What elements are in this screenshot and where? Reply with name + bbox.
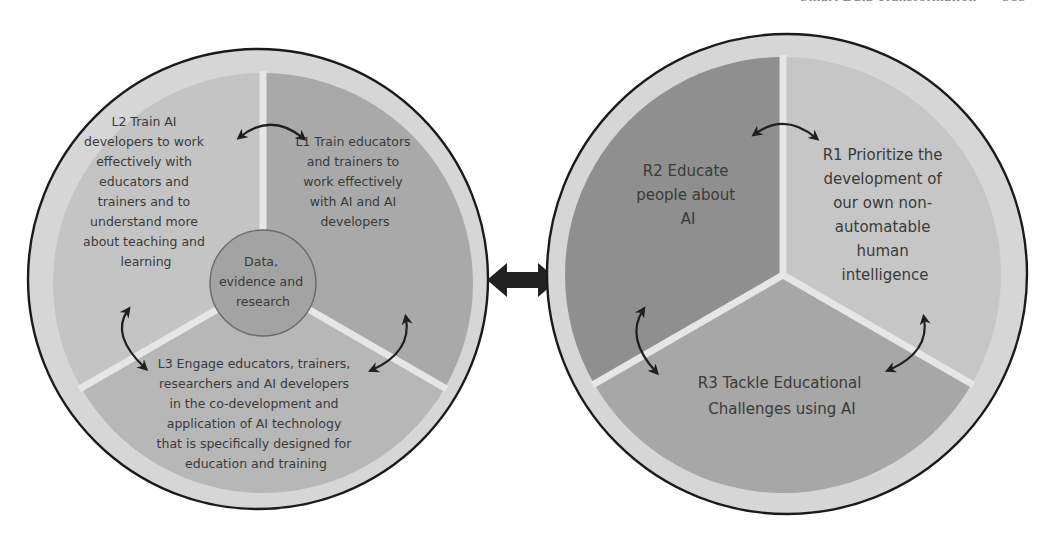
r3-line: Challenges using AI xyxy=(708,400,856,418)
l2-line: effectively with xyxy=(96,154,192,169)
l2-line: understand more xyxy=(90,214,198,229)
l2-line: learning xyxy=(121,254,172,269)
l2-line: about teaching and xyxy=(83,234,205,249)
r2-line: AI xyxy=(681,210,696,228)
l3-line: L3 Engage educators, trainers, xyxy=(158,356,351,371)
l1-line: L1 Train educators xyxy=(295,134,410,149)
running-title: Smart Data Transformation xyxy=(800,0,977,4)
l1-line: work effectively xyxy=(303,174,403,189)
ai-education-diagram: L1 Train educators and trainers to work … xyxy=(0,0,1055,540)
r3-line: R3 Tackle Educational xyxy=(698,374,862,392)
right-circle: R1 Prioritize the development of our own… xyxy=(547,34,1027,514)
center-line: research xyxy=(236,294,290,309)
r2-line: people about xyxy=(636,186,735,204)
center-line: evidence and xyxy=(219,274,303,289)
center-line: Data, xyxy=(244,254,278,269)
r1-line: our own non- xyxy=(833,194,932,212)
r2-line: R2 Educate xyxy=(643,162,729,180)
l3-line: in the co-development and xyxy=(169,396,338,411)
r1-line: development of xyxy=(824,170,943,188)
l3-line: that is specifically designed for xyxy=(157,436,353,451)
l3-line: education and training xyxy=(185,456,327,471)
page-number: 315 xyxy=(1002,0,1026,4)
r1-line: human xyxy=(856,242,908,260)
diagram-stage: Smart Data Transformation 315 L1 Train e… xyxy=(0,0,1055,540)
l2-line: developers to work xyxy=(84,134,205,149)
r1-line: intelligence xyxy=(841,266,928,284)
l2-line: educators and xyxy=(99,174,189,189)
l1-line: and trainers to xyxy=(307,154,399,169)
l1-line: with AI and AI xyxy=(310,194,396,209)
left-circle: L1 Train educators and trainers to work … xyxy=(28,49,488,509)
r1-line: R1 Prioritize the xyxy=(823,146,943,164)
l3-line: application of AI technology xyxy=(167,416,342,431)
r1-line: automatable xyxy=(835,218,931,236)
l3-line: researchers and AI developers xyxy=(159,376,349,391)
l1-line: developers xyxy=(320,214,389,229)
page-running-header: Smart Data Transformation 315 xyxy=(800,0,1055,8)
l2-line: trainers and to xyxy=(98,194,190,209)
l2-line: L2 Train AI xyxy=(111,114,176,129)
